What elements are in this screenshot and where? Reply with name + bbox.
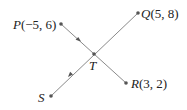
point-t xyxy=(92,52,96,56)
point-q xyxy=(136,11,140,15)
label-p: P(−5, 6) xyxy=(13,18,56,31)
label-r-name: R xyxy=(131,76,139,91)
label-q-name: Q xyxy=(141,6,150,21)
point-r xyxy=(124,81,128,85)
label-p-name: P xyxy=(13,17,21,32)
line-diagram: P(−5, 6) Q(5, 8) T R(3, 2) S xyxy=(0,0,187,110)
label-q: Q(5, 8) xyxy=(141,7,179,20)
point-s xyxy=(49,94,53,98)
point-p xyxy=(59,22,63,26)
label-q-coords: (5, 8) xyxy=(150,6,178,21)
label-p-coords: (−5, 6) xyxy=(21,17,57,32)
label-r: R(3, 2) xyxy=(131,77,167,90)
label-s: S xyxy=(38,91,45,104)
label-t: T xyxy=(89,59,96,72)
label-r-coords: (3, 2) xyxy=(139,76,167,91)
